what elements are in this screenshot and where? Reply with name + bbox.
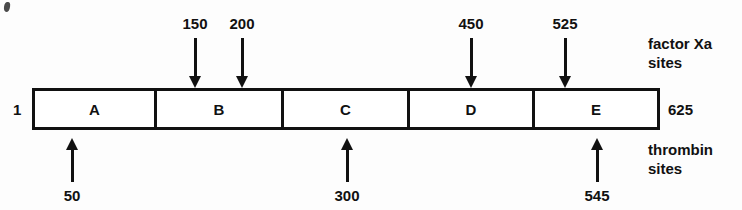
arrow-shaft	[596, 148, 599, 182]
domain-segment-e: E	[532, 91, 657, 127]
domain-segment-b: B	[154, 91, 281, 127]
arrow-shaft	[470, 38, 473, 78]
arrow-down-icon	[236, 76, 248, 88]
factor-xa-marker-525: 525	[535, 16, 595, 88]
domain-segment-d: D	[407, 91, 532, 127]
arrow-shaft	[346, 148, 349, 182]
domain-segment-c-label: C	[340, 101, 351, 118]
thrombin-marker-300: 300	[317, 134, 377, 208]
factor-xa-marker-450-label: 450	[458, 16, 483, 31]
arrow-shaft	[71, 148, 74, 182]
thrombin-marker-300-label: 300	[334, 188, 359, 203]
factor-xa-marker-200-label: 200	[229, 16, 254, 31]
arrow-shaft	[241, 38, 244, 78]
thrombin-marker-50: 50	[42, 134, 102, 208]
scan-artifact-mark	[3, 2, 10, 12]
domain-segment-c: C	[281, 91, 407, 127]
factor-xa-marker-200: 200	[212, 16, 272, 88]
arrow-down-icon	[559, 76, 571, 88]
domain-bar: A B C D E	[32, 88, 660, 130]
factor-xa-sites-caption: factor Xa sites	[648, 34, 712, 72]
thrombin-marker-545: 545	[567, 134, 627, 208]
residue-end-label: 625	[668, 102, 693, 117]
thrombin-marker-50-label: 50	[64, 188, 81, 203]
domain-segment-a: A	[35, 91, 154, 127]
arrow-shaft	[564, 38, 567, 78]
domain-segment-b-label: B	[213, 101, 224, 118]
thrombin-marker-545-label: 545	[584, 188, 609, 203]
domain-segment-e-label: E	[591, 101, 601, 118]
factor-xa-marker-450: 450	[441, 16, 501, 88]
domain-segment-a-label: A	[89, 101, 100, 118]
factor-xa-marker-150-label: 150	[182, 16, 207, 31]
domain-map-figure: 1 A B C D E 625 150 200 450 525	[0, 0, 742, 210]
residue-start-label: 1	[13, 102, 21, 117]
arrow-down-icon	[189, 76, 201, 88]
arrow-shaft	[194, 38, 197, 78]
arrow-down-icon	[465, 76, 477, 88]
domain-segment-d-label: D	[465, 101, 476, 118]
factor-xa-marker-525-label: 525	[552, 16, 577, 31]
thrombin-sites-caption: thrombin sites	[648, 140, 713, 178]
